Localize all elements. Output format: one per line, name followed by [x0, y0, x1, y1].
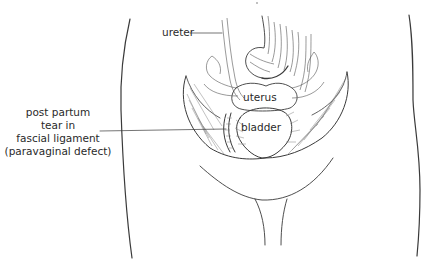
defect-label: post partum tear in fascial ligament (pa… — [0, 106, 118, 158]
ureter-label: ureter — [162, 26, 194, 39]
defect-leader-line — [100, 129, 226, 131]
defect-label-line: post partum — [0, 106, 118, 119]
defect-label-line: fascial ligament — [0, 132, 118, 145]
anatomy-diagram: ureter uterus bladder post partum tear i… — [0, 0, 427, 267]
fascial-tear — [224, 113, 235, 152]
bladder-label: bladder — [241, 121, 281, 134]
marker-dot — [256, 2, 257, 3]
uterus-label: uterus — [243, 91, 277, 104]
rectum-sigmoid — [246, 16, 299, 79]
right-body-outline — [409, 15, 420, 256]
defect-label-line: (paravaginal defect) — [0, 145, 118, 158]
pelvic-floor-muscle — [183, 72, 348, 159]
left-thigh-line — [255, 199, 265, 245]
right-thigh-line — [281, 199, 287, 245]
left-body-outline — [121, 19, 132, 258]
groin-curve — [200, 158, 333, 200]
defect-label-line: tear in — [0, 119, 118, 132]
